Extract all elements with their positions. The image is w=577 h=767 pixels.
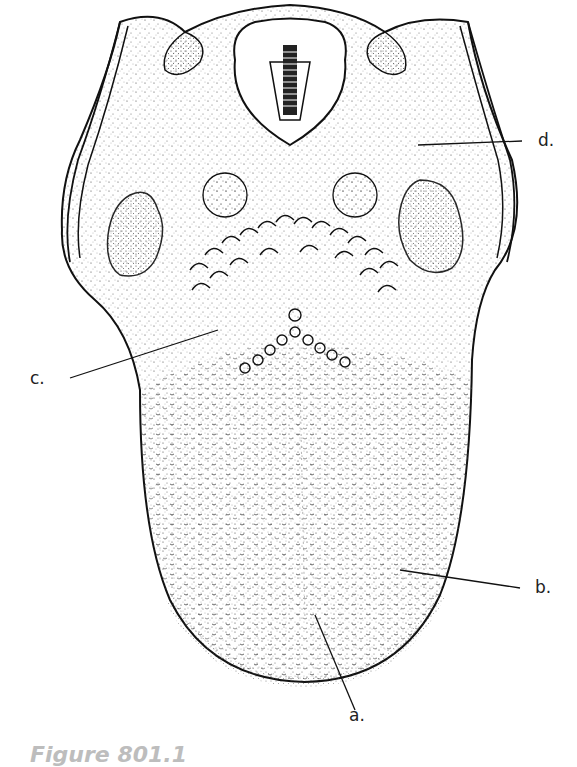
label-d: d. (538, 130, 554, 150)
label-b: b. (535, 577, 551, 597)
figure-caption: Figure 801.1 (30, 742, 187, 767)
label-c: c. (30, 368, 45, 388)
label-a: a. (349, 705, 365, 725)
